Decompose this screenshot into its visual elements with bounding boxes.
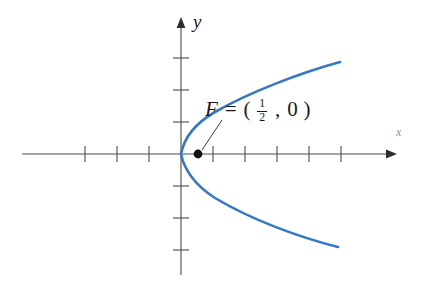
fraction-numerator: 1 (257, 98, 267, 110)
open-paren: ( (243, 97, 250, 121)
y-axis-arrowhead (177, 17, 186, 28)
focus-point-marker (194, 150, 203, 159)
focus-leader-line (202, 120, 222, 150)
parabola-figure: F = ( 1 2 , 0 ) y x (0, 0, 423, 287)
one-half-fraction: 1 2 (257, 98, 267, 124)
figure-canvas (0, 0, 423, 287)
focus-point-label: F = ( 1 2 , 0 ) (205, 98, 311, 124)
x-axis-label: x (396, 126, 401, 138)
comma: , (274, 97, 282, 121)
focus-y-value: 0 (287, 97, 298, 121)
focus-symbol: F (205, 97, 218, 121)
close-paren: ) (304, 97, 311, 121)
x-axis-arrowhead (386, 150, 397, 159)
y-axis-label: y (193, 12, 201, 31)
fraction-denominator: 2 (257, 112, 267, 124)
equals-sign: = (224, 97, 238, 121)
